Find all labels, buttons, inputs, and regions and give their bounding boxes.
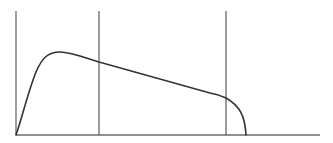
curve-diagram <box>0 0 333 143</box>
diagram-canvas <box>0 0 333 143</box>
background <box>0 0 333 143</box>
